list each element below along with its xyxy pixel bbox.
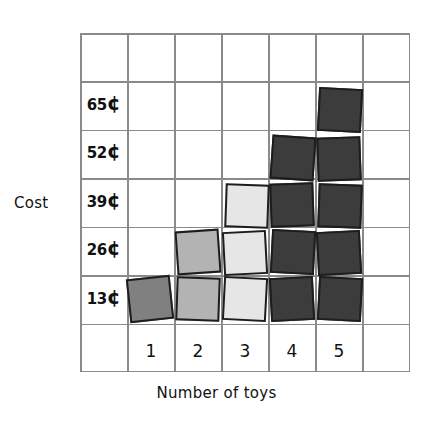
grid-line-vertical (362, 33, 364, 372)
block-col5-4 (316, 136, 362, 182)
block-col5-2 (316, 230, 362, 276)
block-col4-4 (270, 135, 317, 182)
xtick-label-5: 5 (315, 341, 363, 361)
grid-line-horizontal (80, 324, 410, 326)
grid-line-vertical (315, 33, 317, 372)
block-col2-2 (175, 229, 222, 276)
grid-line-horizontal (80, 81, 410, 83)
xtick-label-4: 4 (268, 341, 316, 361)
x-axis-title: Number of toys (0, 384, 433, 402)
grid-line-vertical (174, 33, 176, 372)
xtick-label-2: 2 (174, 341, 222, 361)
block-col5-5 (317, 87, 363, 133)
block-col5-1 (317, 276, 363, 322)
block-col1-1 (126, 275, 174, 323)
ytick-label-39: 39¢ (80, 188, 127, 212)
grid-line-horizontal (80, 371, 410, 373)
block-col2-1 (175, 276, 221, 322)
ytick-label-65: 65¢ (80, 91, 127, 115)
block-col3-2 (222, 230, 268, 276)
xtick-label-3: 3 (221, 341, 269, 361)
block-col4-1 (269, 276, 315, 322)
ytick-label-52: 52¢ (80, 139, 127, 163)
grid-line-horizontal (80, 33, 410, 35)
xtick-label-1: 1 (127, 341, 175, 361)
y-axis-title: Cost (14, 194, 49, 212)
grid-line-vertical (221, 33, 223, 372)
hand-drawn-bar-chart: 65¢ 52¢ 39¢ 26¢ 13¢ 1 2 3 4 5 Cost Numbe… (0, 0, 433, 426)
ytick-label-13: 13¢ (80, 285, 127, 309)
ytick-label-26: 26¢ (80, 236, 127, 260)
grid-line-vertical (127, 33, 129, 372)
block-col3-1 (222, 276, 268, 322)
block-col4-2 (270, 229, 316, 275)
block-col4-3 (269, 182, 315, 228)
block-col3-3 (224, 183, 270, 229)
grid-line-vertical (409, 33, 411, 372)
block-col5-3 (317, 183, 363, 229)
